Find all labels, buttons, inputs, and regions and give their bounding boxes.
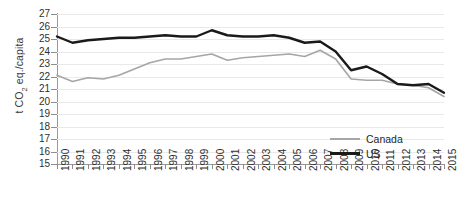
x-axis-tick-label: 1991 [76,149,86,171]
y-axis-tick [51,27,57,28]
x-axis-tick-label: 2005 [293,149,303,171]
x-axis-tick-label: 1993 [107,149,117,171]
x-axis-tick-label: 1996 [154,149,164,171]
y-axis-tick-label: 18 [22,122,50,132]
x-axis-tick [134,164,135,169]
legend-item-us[interactable]: US [330,146,403,161]
grid-line [57,52,444,53]
x-axis-tick [429,164,430,169]
x-axis-tick [336,164,337,169]
y-axis-tick-label: 21 [22,84,50,94]
x-axis-tick-label: 1995 [138,149,148,171]
x-axis-tick [227,164,228,169]
x-axis-tick [274,164,275,169]
y-axis-tick-label: 24 [22,47,50,57]
y-axis-tick-label: 27 [22,9,50,19]
x-axis-tick-label: 2002 [247,149,257,171]
y-axis-tick [51,89,57,90]
x-axis-tick [305,164,306,169]
x-axis-tick-label: 2012 [402,149,412,171]
y-axis-tick [51,64,57,65]
grid-line [57,39,444,40]
x-axis-tick [181,164,182,169]
y-axis-tick-label: 25 [22,34,50,44]
x-axis-tick [258,164,259,169]
y-axis-tick-label: 15 [22,159,50,169]
y-axis-tick-label: 26 [22,22,50,32]
x-axis-tick [212,164,213,169]
x-axis-tick [119,164,120,169]
x-axis-tick-label: 1997 [169,149,179,171]
y-axis-tick-label: 23 [22,59,50,69]
x-axis-tick [88,164,89,169]
x-axis-tick [320,164,321,169]
x-axis-tick [72,164,73,169]
grid-line [57,127,444,128]
x-axis-tick-label: 2000 [216,149,226,171]
y-axis-tick [51,102,57,103]
x-axis-tick [413,164,414,169]
x-axis-tick-label: 2001 [231,149,241,171]
legend-label-canada: Canada [366,133,403,145]
legend-label-us: US [366,148,381,160]
x-axis-tick-label: 2006 [309,149,319,171]
x-axis-tick-label: 2014 [433,149,443,171]
y-axis-tick [51,127,57,128]
y-axis-tick [51,152,57,153]
x-axis-tick-label: 1998 [185,149,195,171]
x-axis-tick [398,164,399,169]
x-axis-tick-label: 1990 [61,149,71,171]
x-axis-tick-label: 2004 [278,149,288,171]
x-axis-tick-label: 2015 [448,149,458,171]
x-axis-tick [289,164,290,169]
legend-swatch-us-icon [330,152,360,155]
y-axis-tick-label: 20 [22,97,50,107]
x-axis-tick [351,164,352,169]
y-axis-tick-label: 22 [22,72,50,82]
y-axis-tick [51,114,57,115]
legend-swatch-canada-icon [330,138,360,140]
x-axis-tick [243,164,244,169]
x-axis-tick [57,164,58,169]
x-axis-tick-label: 1992 [92,149,102,171]
grid-line [57,102,444,103]
x-axis-tick [165,164,166,169]
x-axis-tick [103,164,104,169]
grid-line [57,27,444,28]
grid-line [57,64,444,65]
y-axis-tick-label: 17 [22,134,50,144]
y-axis-tick [51,39,57,40]
grid-line [57,14,444,15]
x-axis-tick-label: 1999 [200,149,210,171]
x-axis-tick-label: 2013 [417,149,427,171]
x-axis-tick-label: 1994 [123,149,133,171]
grid-line [57,114,444,115]
x-axis-tick [444,164,445,169]
y-axis-tick [51,14,57,15]
legend-item-canada[interactable]: Canada [330,131,403,146]
x-axis-tick [196,164,197,169]
x-axis-tick [150,164,151,169]
grid-line [57,77,444,78]
chart-legend: Canada US [330,131,403,161]
y-axis-tick [51,52,57,53]
x-axis-tick-label: 2003 [262,149,272,171]
x-axis-tick [367,164,368,169]
y-axis-tick [51,139,57,140]
x-axis-tick [382,164,383,169]
y-axis-tick-label: 16 [22,147,50,157]
y-axis-tick [51,77,57,78]
grid-line [57,89,444,90]
y-axis-tick-label: 19 [22,109,50,119]
